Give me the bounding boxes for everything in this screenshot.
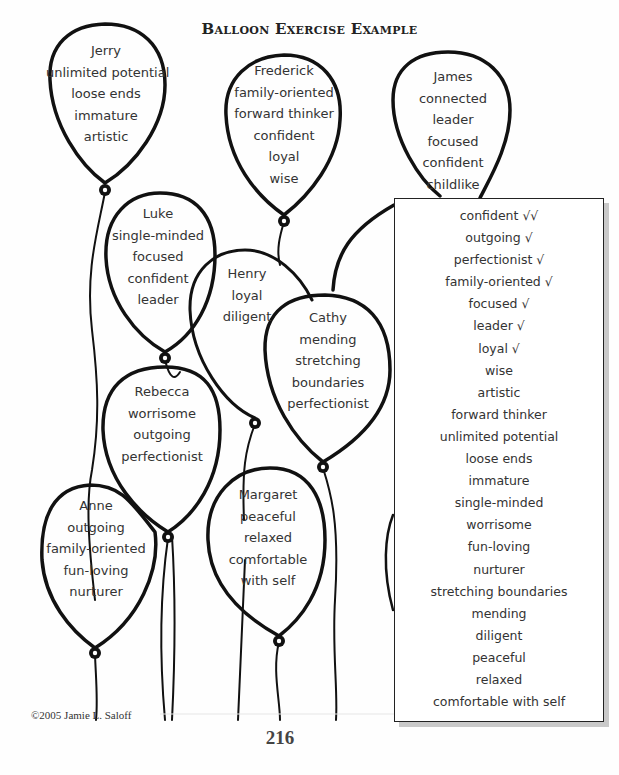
balloon-trait: perfectionist bbox=[278, 393, 378, 415]
trait-summary-item: unlimited potential bbox=[395, 426, 603, 448]
balloon-henry: Henry loyal diligent bbox=[222, 263, 272, 328]
balloon-trait: wise bbox=[224, 168, 344, 190]
trait-summary-item: worrisome bbox=[395, 514, 603, 536]
balloon-trait: forward thinker bbox=[224, 103, 344, 125]
balloon-trait: focused bbox=[103, 246, 213, 268]
trait-summary-item: leader √ bbox=[395, 315, 603, 337]
balloon-trait: single-minded bbox=[103, 225, 213, 247]
trait-summary-item: wise bbox=[395, 360, 603, 382]
balloon-trait: family-oriented bbox=[224, 82, 344, 104]
trait-summary-item: diligent bbox=[395, 625, 603, 647]
trait-summary-item: nurturer bbox=[395, 559, 603, 581]
balloon-trait: mending bbox=[278, 329, 378, 351]
trait-summary-box: confident √√ outgoing √ perfectionist √ … bbox=[394, 198, 604, 722]
balloon-trait: comfortable bbox=[218, 549, 318, 571]
balloon-name: Rebecca bbox=[112, 381, 212, 403]
balloon-trait: loose ends bbox=[46, 83, 166, 105]
trait-summary-item: confident √√ bbox=[395, 205, 603, 227]
balloon-trait: family-oriented bbox=[44, 538, 148, 560]
trait-summary-item: single-minded bbox=[395, 492, 603, 514]
copyright-notice: ©2005 Jamie L. Saloff bbox=[31, 709, 131, 721]
balloon-name: Margaret bbox=[218, 484, 318, 506]
trait-summary-item: relaxed bbox=[395, 669, 603, 691]
balloon-trait: outgoing bbox=[44, 517, 148, 539]
balloon-frederick: Frederick family-oriented forward thinke… bbox=[224, 60, 344, 189]
balloon-trait: loyal bbox=[224, 146, 344, 168]
trait-summary-item: stretching boundaries bbox=[395, 581, 603, 603]
balloon-trait: confident bbox=[398, 152, 508, 174]
trait-summary-item: family-oriented √ bbox=[395, 271, 603, 293]
balloon-jerry: Jerry unlimited potential loose ends imm… bbox=[46, 40, 166, 148]
balloon-anne: Anne outgoing family-oriented fun-loving… bbox=[44, 495, 148, 603]
balloon-trait: perfectionist bbox=[112, 446, 212, 468]
balloon-trait: with self bbox=[218, 570, 318, 592]
balloon-name: Anne bbox=[44, 495, 148, 517]
balloon-name: James bbox=[398, 66, 508, 88]
balloon-trait: fun-loving bbox=[44, 560, 148, 582]
balloon-margaret: Margaret peaceful relaxed comfortable wi… bbox=[218, 484, 318, 592]
trait-summary-item: peaceful bbox=[395, 647, 603, 669]
balloon-trait: peaceful bbox=[218, 506, 318, 528]
trait-summary-item: forward thinker bbox=[395, 404, 603, 426]
balloon-trait: leader bbox=[398, 109, 508, 131]
balloon-trait: boundaries bbox=[278, 372, 378, 394]
balloon-name: Henry bbox=[222, 263, 272, 285]
trait-summary-item: loose ends bbox=[395, 448, 603, 470]
balloon-rebecca: Rebecca worrisome outgoing perfectionist bbox=[112, 381, 212, 467]
trait-summary-item: comfortable with self bbox=[395, 691, 603, 713]
balloon-name: Frederick bbox=[224, 60, 344, 82]
balloon-name: Luke bbox=[103, 203, 213, 225]
balloon-trait: confident bbox=[224, 125, 344, 147]
balloon-trait: childlike bbox=[398, 174, 508, 196]
balloon-trait: outgoing bbox=[112, 424, 212, 446]
balloon-trait: stretching bbox=[278, 350, 378, 372]
balloon-trait: diligent bbox=[222, 306, 272, 328]
trait-summary-item: artistic bbox=[395, 382, 603, 404]
balloon-cathy: Cathy mending stretching boundaries perf… bbox=[278, 307, 378, 415]
balloon-trait: focused bbox=[398, 131, 508, 153]
balloon-name: Jerry bbox=[46, 40, 166, 62]
trait-summary-item: immature bbox=[395, 470, 603, 492]
trait-summary-list: confident √√ outgoing √ perfectionist √ … bbox=[395, 205, 603, 713]
balloon-trait: immature bbox=[46, 105, 166, 127]
balloon-trait: loyal bbox=[222, 285, 272, 307]
trait-summary-item: fun-loving bbox=[395, 536, 603, 558]
balloon-james: James connected leader focused confident… bbox=[398, 66, 508, 195]
balloon-trait: leader bbox=[103, 289, 213, 311]
document-page: Balloon Exercise Example bbox=[0, 0, 619, 775]
balloon-trait: artistic bbox=[46, 126, 166, 148]
balloon-trait: confident bbox=[103, 268, 213, 290]
page-number: 216 bbox=[0, 727, 560, 749]
trait-summary-item: perfectionist √ bbox=[395, 249, 603, 271]
trait-summary-item: loyal √ bbox=[395, 338, 603, 360]
trait-summary-item: outgoing √ bbox=[395, 227, 603, 249]
balloon-name: Cathy bbox=[278, 307, 378, 329]
balloon-trait: unlimited potential bbox=[46, 62, 166, 84]
balloon-trait: worrisome bbox=[112, 403, 212, 425]
trait-summary-item: mending bbox=[395, 603, 603, 625]
balloon-trait: connected bbox=[398, 88, 508, 110]
balloon-luke: Luke single-minded focused confident lea… bbox=[103, 203, 213, 311]
balloon-trait: nurturer bbox=[44, 581, 148, 603]
trait-summary-item: focused √ bbox=[395, 293, 603, 315]
balloon-trait: relaxed bbox=[218, 527, 318, 549]
